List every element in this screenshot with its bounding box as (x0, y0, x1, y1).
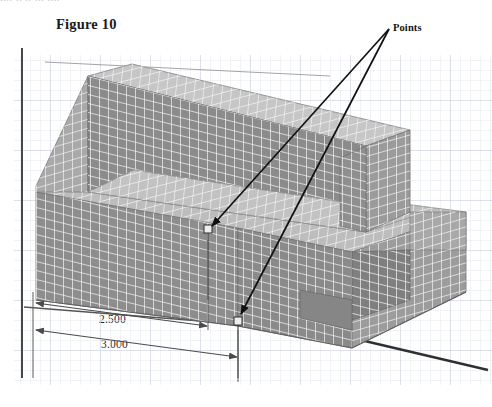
face-right-rib-side (340, 146, 366, 232)
face-right-shoulder (410, 212, 466, 250)
figure-artwork (0, 0, 492, 407)
figure-canvas: .... .. .. ... .... Figure 10 Points 2.5… (0, 0, 492, 407)
